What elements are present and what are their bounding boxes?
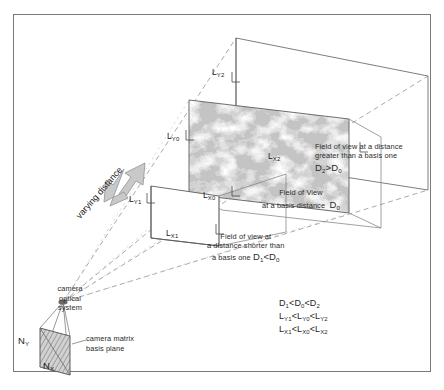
label-lx0: LX0 <box>203 190 215 200</box>
annotation-near-line2: a distance shorter than <box>207 242 284 251</box>
camera-label-line3: system <box>41 303 99 313</box>
figure-container: varying distance LY2 LX2 LY0 LX0 LY1 LX1… <box>0 0 444 390</box>
inequality-row: LX1<LX0<LX2 <box>279 323 328 336</box>
diagram-canvas <box>0 0 444 390</box>
annotation-far-field: Field of view at a distance greater than… <box>315 143 403 174</box>
camera-label-line2: optical <box>41 294 99 304</box>
annotation-far-line2: greater than a basis one <box>315 152 403 161</box>
inequality-block: D1<D0<D2 LY1<LY0<LY2 LX1<LX0<LX2 <box>279 297 328 336</box>
annotation-basis-field: Field of View at a basis distance D0 <box>262 189 340 210</box>
matrix-label-line2: basis plane <box>86 344 134 354</box>
camera-label-line1: camera <box>41 284 99 294</box>
label-ny: NY <box>18 335 29 346</box>
annotation-near-line3: a basis one D1<D0 <box>207 251 284 263</box>
matrix-label-line1: camera matrix <box>86 334 134 344</box>
annotation-near-field: Field of view at a distance shorter than… <box>207 233 284 263</box>
camera-matrix-plane-label: camera matrix basis plane <box>86 334 134 353</box>
inequality-row: D1<D0<D2 <box>279 297 328 310</box>
label-lx2: LX2 <box>268 151 280 161</box>
label-ly2: LY2 <box>212 67 224 77</box>
inequality-row: LY1<LY0<LY2 <box>279 310 328 323</box>
annotation-far-formula: D2>D0 <box>315 162 403 173</box>
label-nx: NX <box>43 360 54 371</box>
camera-optical-system-label: camera optical system <box>41 284 99 313</box>
label-lx1: LX1 <box>166 228 178 238</box>
annotation-basis-line2: at a basis distance D0 <box>262 199 340 211</box>
annotation-basis-line1: Field of View <box>262 189 340 198</box>
label-ly0: LY0 <box>167 131 179 141</box>
label-ly1: LY1 <box>129 194 141 204</box>
